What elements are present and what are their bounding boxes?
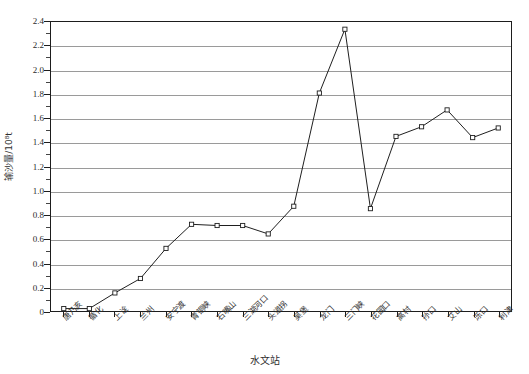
data-point-marker: 龙门: 1.81 [317,91,321,95]
y-tick-minor-mark [46,203,50,204]
y-tick-mark [44,70,50,71]
data-point-marker: 孙口: 1.53 [419,125,423,129]
sediment-discharge-line-chart: 输沙量/10⁸t 00.20.40.60.81.01.21.41.61.82.0… [0,0,529,374]
data-point-marker: 兰州: 0.27 [138,276,142,280]
data-line [64,29,498,308]
data-point-marker: 循化: 0.02 [87,307,91,311]
data-point-marker: 高村: 1.45 [394,134,398,138]
data-point-marker: 吴堡: 0.87 [292,204,296,208]
data-point-marker: 安宁渡: 0.52 [164,246,168,250]
data-point-marker: 上诠: 0.15 [113,291,117,295]
data-point-marker: 泺口: 1.44 [471,136,475,140]
y-tick-minor-mark [46,106,50,107]
data-point-marker: 石嘴山: 0.71 [215,223,219,227]
y-tick-mark [44,264,50,265]
y-tick-mark [44,142,50,143]
y-tick-label: 1.2 [33,162,44,171]
y-tick-label: 0.8 [33,211,44,220]
data-point-marker: 三门峡: 2.34 [343,27,347,31]
x-axis-title: 水文站 [0,352,529,367]
y-tick-label: 2.0 [33,65,44,74]
data-point-marker: 青铜峡: 0.72 [189,222,193,226]
y-axis-tick-labels: 00.20.40.60.81.01.21.41.61.82.02.22.4 [14,0,47,320]
y-tick-mark [44,312,50,313]
y-tick-mark [44,288,50,289]
y-tick-label: 2.4 [33,17,44,26]
y-tick-mark [44,191,50,192]
data-point-marker: 花园口: 0.85 [368,207,372,211]
y-tick-label: 1.0 [33,186,44,195]
y-tick-minor-mark [46,300,50,301]
plot-area: 唐乃亥: 0.02循化: 0.02上诠: 0.15兰州: 0.27安宁渡: 0.… [50,21,512,312]
y-tick-label: 0.4 [33,259,44,268]
y-tick-mark [44,94,50,95]
y-tick-mark [44,239,50,240]
y-tick-minor-mark [46,82,50,83]
y-tick-mark [44,167,50,168]
y-tick-label: 0.6 [33,235,44,244]
y-tick-minor-mark [46,130,50,131]
y-tick-minor-mark [46,227,50,228]
data-point-marker: 三湖河口: 0.71 [241,223,245,227]
y-tick-mark [44,215,50,216]
y-tick-minor-mark [46,251,50,252]
y-tick-minor-mark [46,57,50,58]
data-point-marker: 利津: 1.52 [496,126,500,130]
data-series-svg: 唐乃亥: 0.02循化: 0.02上诠: 0.15兰州: 0.27安宁渡: 0.… [51,22,511,311]
y-tick-mark [44,45,50,46]
y-tick-minor-mark [46,33,50,34]
data-point-marker: 艾山: 1.67 [445,108,449,112]
data-point-marker: 头道拐: 0.64 [266,232,270,236]
y-tick-label: 2.2 [33,41,44,50]
y-tick-label: 1.4 [33,138,44,147]
y-tick-label: 1.6 [33,114,44,123]
y-tick-label: 0.2 [33,283,44,292]
y-tick-mark [44,21,50,22]
y-tick-minor-mark [46,154,50,155]
y-tick-label: 1.8 [33,89,44,98]
y-tick-mark [44,118,50,119]
y-tick-minor-mark [46,179,50,180]
y-tick-minor-mark [46,276,50,277]
y-axis-title-label: 输沙量/10⁸t [2,132,15,181]
